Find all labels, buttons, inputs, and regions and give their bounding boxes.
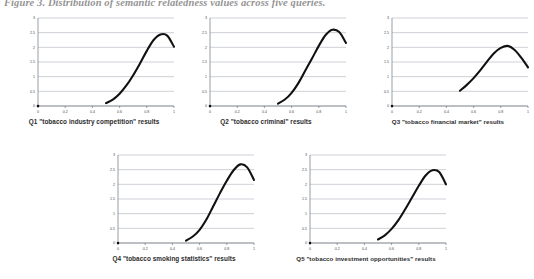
- svg-text:2: 2: [113, 183, 115, 187]
- svg-text:0.6: 0.6: [389, 247, 394, 251]
- svg-text:3: 3: [305, 153, 307, 157]
- svg-text:3: 3: [387, 16, 389, 20]
- svg-text:1.5: 1.5: [30, 60, 35, 64]
- svg-text:0.8: 0.8: [498, 110, 503, 114]
- svg-text:0.4: 0.4: [90, 110, 95, 114]
- chart-caption-q2: Q2 "tobacco criminal" results: [180, 118, 352, 125]
- svg-text:2.5: 2.5: [202, 31, 207, 35]
- svg-text:0: 0: [387, 104, 389, 108]
- svg-text:0.4: 0.4: [170, 247, 175, 251]
- svg-text:0: 0: [305, 241, 307, 245]
- svg-text:3: 3: [205, 16, 207, 20]
- svg-text:2.5: 2.5: [110, 168, 115, 172]
- chart-caption-q4: Q4 "tobacco smoking statistics" results: [88, 255, 260, 262]
- plot-area-q3: 00.511.522.5300.20.40.60.81: [362, 10, 534, 122]
- svg-text:0.6: 0.6: [117, 110, 122, 114]
- svg-text:0.5: 0.5: [110, 227, 115, 231]
- svg-text:1: 1: [253, 247, 255, 251]
- chart-panel-q3: 00.511.522.5300.20.40.60.81 Q3 "tobacco …: [362, 10, 534, 143]
- chart-panel-q4: 00.511.522.5300.20.40.60.81 Q4 "tobacco …: [88, 147, 260, 279]
- svg-text:0.6: 0.6: [471, 110, 476, 114]
- line-chart-q3: 00.511.522.5300.20.40.60.81: [362, 10, 534, 122]
- chart-caption-q1: Q1 "tobacco industry competition" result…: [8, 118, 180, 125]
- svg-text:0.6: 0.6: [289, 110, 294, 114]
- plot-area-q2: 00.511.522.5300.20.40.60.81: [180, 10, 352, 122]
- svg-text:0: 0: [391, 110, 393, 114]
- svg-text:0.5: 0.5: [384, 90, 389, 94]
- svg-text:2: 2: [305, 183, 307, 187]
- svg-text:1.5: 1.5: [110, 197, 115, 201]
- figure-chart-grid: 00.511.522.5300.20.40.60.81 Q1 "tobacco …: [0, 10, 526, 279]
- svg-text:0.2: 0.2: [235, 110, 240, 114]
- chart-row-bottom: 00.511.522.5300.20.40.60.81 Q4 "tobacco …: [0, 143, 526, 279]
- chart-panel-q5: 00.511.522.5300.20.40.60.81 Q5 "tobacco …: [280, 147, 452, 279]
- figure-title: Figure 3. Distribution of semantic relat…: [0, 0, 530, 8]
- svg-text:1: 1: [33, 75, 35, 79]
- svg-text:0.8: 0.8: [416, 247, 421, 251]
- svg-text:0: 0: [37, 110, 39, 114]
- svg-text:0.2: 0.2: [335, 247, 340, 251]
- svg-text:1: 1: [445, 247, 447, 251]
- plot-area-q1: 00.511.522.5300.20.40.60.81: [8, 10, 180, 122]
- svg-text:0: 0: [113, 241, 115, 245]
- svg-text:0.4: 0.4: [444, 110, 449, 114]
- chart-panel-q2: 00.511.522.5300.20.40.60.81 Q2 "tobacco …: [180, 10, 352, 143]
- svg-text:1: 1: [305, 212, 307, 216]
- svg-text:0.2: 0.2: [143, 247, 148, 251]
- svg-text:1.5: 1.5: [384, 60, 389, 64]
- svg-text:2.5: 2.5: [302, 168, 307, 172]
- svg-text:0.5: 0.5: [302, 227, 307, 231]
- svg-text:0: 0: [209, 110, 211, 114]
- svg-text:2: 2: [387, 46, 389, 50]
- svg-text:0: 0: [309, 247, 311, 251]
- chart-caption-q3: Q3 "tobacco financial market" results: [362, 118, 534, 125]
- svg-text:0.5: 0.5: [30, 90, 35, 94]
- chart-caption-q5: Q5 "tobacco investment opportunities" re…: [280, 255, 452, 262]
- svg-text:2.5: 2.5: [384, 31, 389, 35]
- svg-text:1: 1: [173, 110, 175, 114]
- svg-text:3: 3: [113, 153, 115, 157]
- svg-text:0: 0: [33, 104, 35, 108]
- line-chart-q2: 00.511.522.5300.20.40.60.81: [180, 10, 352, 122]
- svg-text:0.8: 0.8: [224, 247, 229, 251]
- svg-text:0.2: 0.2: [63, 110, 68, 114]
- svg-text:3: 3: [33, 16, 35, 20]
- svg-text:1: 1: [527, 110, 529, 114]
- svg-text:0.2: 0.2: [417, 110, 422, 114]
- line-chart-q5: 00.511.522.5300.20.40.60.81: [280, 147, 452, 259]
- svg-text:0: 0: [117, 247, 119, 251]
- svg-text:0.4: 0.4: [262, 110, 267, 114]
- svg-text:0.8: 0.8: [316, 110, 321, 114]
- svg-text:1: 1: [205, 75, 207, 79]
- svg-text:2.5: 2.5: [30, 31, 35, 35]
- svg-text:0.4: 0.4: [362, 247, 367, 251]
- svg-text:1: 1: [345, 110, 347, 114]
- svg-text:0: 0: [205, 104, 207, 108]
- svg-text:0.6: 0.6: [197, 247, 202, 251]
- svg-text:2: 2: [33, 46, 35, 50]
- svg-text:1.5: 1.5: [202, 60, 207, 64]
- svg-text:0.8: 0.8: [144, 110, 149, 114]
- chart-row-top: 00.511.522.5300.20.40.60.81 Q1 "tobacco …: [0, 10, 526, 143]
- svg-text:1: 1: [387, 75, 389, 79]
- svg-text:1: 1: [113, 212, 115, 216]
- plot-area-q5: 00.511.522.5300.20.40.60.81: [280, 147, 452, 259]
- plot-area-q4: 00.511.522.5300.20.40.60.81: [88, 147, 260, 259]
- chart-panel-q1: 00.511.522.5300.20.40.60.81 Q1 "tobacco …: [8, 10, 180, 143]
- svg-text:0.5: 0.5: [202, 90, 207, 94]
- svg-text:1.5: 1.5: [302, 197, 307, 201]
- line-chart-q4: 00.511.522.5300.20.40.60.81: [88, 147, 260, 259]
- line-chart-q1: 00.511.522.5300.20.40.60.81: [8, 10, 180, 122]
- svg-text:2: 2: [205, 46, 207, 50]
